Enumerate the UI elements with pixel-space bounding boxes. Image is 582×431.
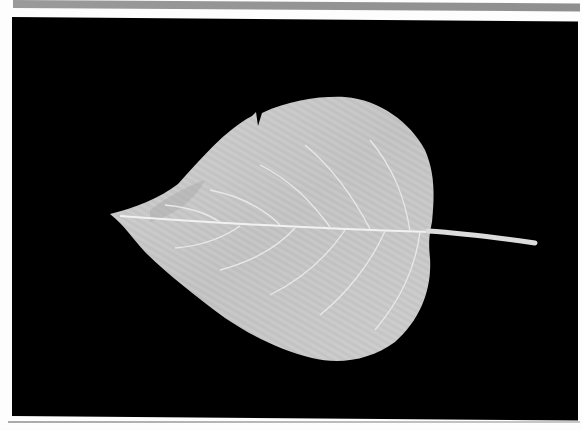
leaf-image xyxy=(0,0,582,431)
bottom-scan-line xyxy=(8,421,580,423)
leaf-petiole xyxy=(428,231,535,243)
